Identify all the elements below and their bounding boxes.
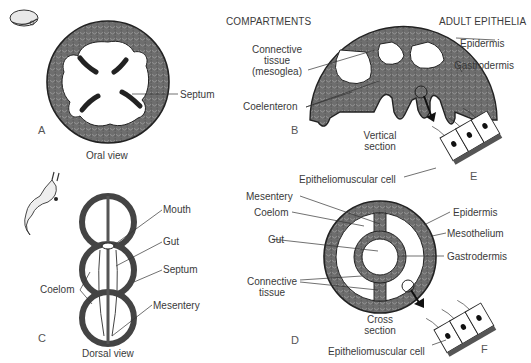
label-b-connective-line3: (mesoglea): [242, 66, 312, 77]
label-d-connective-tissue: Connective tissue: [242, 276, 302, 298]
compartments-header: COMPARTMENTS: [226, 16, 311, 27]
label-c-gut: Gut: [163, 236, 179, 247]
panel-letter-e: E: [470, 170, 477, 182]
label-d-mesentery: Mesentery: [246, 191, 293, 202]
caption-b-line2: section: [355, 141, 405, 152]
label-d-connective-line1: Connective: [242, 276, 302, 287]
oral-view-ring: [47, 21, 178, 143]
caption-b-line1: Vertical: [355, 130, 405, 141]
label-b-coelenteron: Coelenteron: [243, 101, 297, 112]
label-d-connective-line2: tissue: [242, 287, 302, 298]
label-b-gastrodermis: Gastrodermis: [454, 60, 514, 71]
caption-d-line2: section: [358, 325, 402, 336]
panel-letter-c: C: [38, 332, 46, 344]
adult-epithelia-header: ADULT EPITHELIA: [439, 16, 526, 27]
label-d-gastrodermis: Gastrodermis: [447, 251, 507, 262]
label-d-gut: Gut: [268, 234, 284, 245]
panel-letter-f: F: [481, 343, 488, 355]
label-b-connective-line2: tissue: [242, 55, 312, 66]
label-b-epidermis: Epidermis: [460, 38, 504, 49]
label-b-connective-line1: Connective: [242, 44, 312, 55]
label-c-mesentery: Mesentery: [153, 300, 200, 311]
panel-letter-d: D: [291, 334, 299, 346]
caption-dorsal-view: Dorsal view: [82, 348, 134, 359]
label-c-septum: Septum: [163, 264, 197, 275]
label-b-connective-tissue: Connective tissue (mesoglea): [242, 44, 312, 77]
caption-cross-section: Cross section: [358, 314, 402, 336]
label-d-epidermis: Epidermis: [453, 207, 497, 218]
label-f-epitheliomuscular-cell: Epitheliomuscular cell: [328, 346, 425, 357]
label-e-epitheliomuscular-cell: Epitheliomuscular cell: [299, 174, 396, 185]
label-d-mesothelium: Mesothelium: [447, 228, 504, 239]
label-c-coelom: Coelom: [40, 284, 74, 295]
jellyfish-thumbnail-icon: [10, 10, 38, 26]
caption-d-line1: Cross: [358, 314, 402, 325]
panel-letter-b: B: [291, 124, 298, 136]
caption-oral-view: Oral view: [86, 150, 128, 161]
panel-letter-a: A: [38, 124, 45, 136]
caption-vertical-section: Vertical section: [355, 130, 405, 152]
worm-thumbnail-icon: [25, 172, 59, 235]
label-a-septum: Septum: [180, 89, 214, 100]
label-d-coelom: Coelom: [254, 207, 288, 218]
dorsal-view-segments: [80, 196, 162, 344]
label-c-mouth: Mouth: [163, 204, 191, 215]
